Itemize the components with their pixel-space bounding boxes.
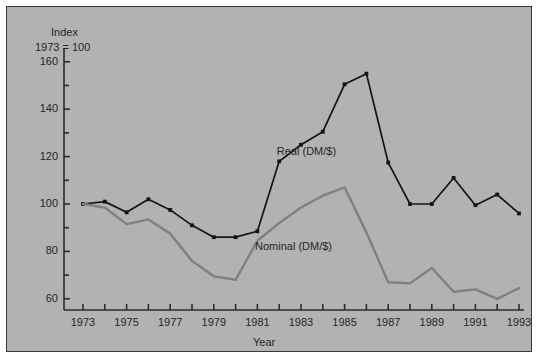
x-axis-tick-label: 1983	[281, 317, 321, 328]
series-marker	[452, 176, 456, 180]
index-caption-line1: Index	[51, 27, 78, 38]
series-marker	[147, 197, 151, 201]
x-axis-tick-label: 1993	[499, 317, 538, 328]
chart-figure: Index 1973 = 100 Year 608010012014016019…	[6, 6, 532, 352]
x-axis-tick-label: 1977	[150, 317, 190, 328]
series-marker	[168, 208, 172, 212]
y-axis-tick-label: 60	[28, 293, 58, 304]
series-annotation-real: Real (DM/$)	[277, 146, 336, 157]
x-axis-tick-label: 1989	[412, 317, 452, 328]
x-axis-tick-label: 1985	[325, 317, 365, 328]
series-marker	[212, 235, 216, 239]
x-axis-tick-label: 1973	[63, 317, 103, 328]
x-axis-tick-label: 1991	[455, 317, 495, 328]
y-axis-tick-label: 140	[28, 103, 58, 114]
chart-plot-svg	[7, 7, 533, 353]
series-marker	[190, 223, 194, 227]
series-marker	[234, 235, 238, 239]
series-marker	[277, 159, 281, 163]
x-axis-tick-label: 1975	[107, 317, 147, 328]
series-marker	[125, 210, 129, 214]
series-marker	[430, 202, 434, 206]
series-marker	[386, 161, 390, 165]
y-axis-tick-label: 120	[28, 151, 58, 162]
series-marker	[408, 202, 412, 206]
x-axis-tick-label: 1981	[237, 317, 277, 328]
x-axis-title: Year	[253, 337, 275, 348]
series-marker	[474, 203, 478, 207]
series-marker	[321, 130, 325, 134]
index-caption-line2: 1973 = 100	[35, 42, 90, 53]
series-annotation-nominal: Nominal (DM/$)	[255, 241, 332, 252]
series-marker	[256, 229, 260, 233]
series-marker	[517, 212, 521, 216]
series-marker	[365, 72, 369, 76]
series-group	[81, 72, 521, 299]
series-marker	[343, 82, 347, 86]
y-axis-tick-label: 160	[28, 56, 58, 67]
x-axis-tick-label: 1987	[368, 317, 408, 328]
y-axis-tick-label: 100	[28, 198, 58, 209]
x-axis-tick-label: 1979	[194, 317, 234, 328]
series-marker	[103, 200, 107, 204]
series-marker	[495, 193, 499, 197]
y-axis-tick-label: 80	[28, 245, 58, 256]
